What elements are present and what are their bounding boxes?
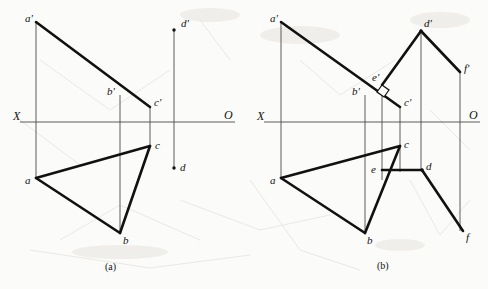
panel-b-edge-ab [281, 178, 365, 233]
panel-b-thin-lines [281, 22, 460, 233]
panel-a-edge-a'c' [36, 22, 150, 107]
right-angle-marker-icon [377, 85, 389, 97]
panel-b-axis-label-o: O [469, 109, 478, 121]
caption-panel-b: (b) [377, 261, 389, 271]
panel-a-dot-d [172, 166, 175, 169]
panel-b-point-label-e: e [371, 164, 376, 175]
figure-canvas: X O a' b' c' d' a b c d X O a' b' e' c' … [0, 0, 488, 289]
panel-b-point-label-d-prime: d' [424, 18, 432, 29]
panel-a [20, 22, 235, 233]
panel-b-axis-label-x: X [257, 110, 264, 122]
panel-b-point-label-b-prime: b' [352, 86, 360, 97]
panel-b-dot-d [420, 168, 423, 171]
projection-drawing-svg [0, 0, 488, 289]
caption-panel-a: (a) [105, 262, 116, 272]
panel-a-dot-d' [172, 28, 175, 31]
panel-b-point-label-a: a [270, 175, 276, 186]
panel-b-point-label-a-prime: a' [270, 13, 278, 24]
panel-a-top-view-edges [36, 146, 150, 233]
panel-b-point-label-b: b [367, 235, 373, 246]
panel-b-point-label-d: d [426, 161, 432, 172]
panel-b-point-label-c: c [404, 139, 409, 150]
panel-a-point-label-b-prime: b' [107, 86, 115, 97]
panel-b-edge-d'e' [382, 31, 421, 85]
panel-a-axis-label-x: X [13, 110, 20, 122]
panel-b-edge-d'f' [421, 31, 460, 72]
panel-a-point-label-c-prime: c' [154, 97, 161, 108]
panel-a-point-label-a-prime: a' [25, 13, 33, 24]
panel-a-thin-lines [36, 22, 174, 233]
panel-b-point-label-e-prime: e' [372, 72, 379, 83]
panel-a-axis-label-o: O [224, 109, 233, 121]
panel-b-point-label-f: f [466, 232, 469, 243]
panel-b-point-label-f-prime: f' [464, 63, 469, 74]
panel-a-point-label-d: d [180, 162, 186, 173]
panel-a-point-label-a: a [25, 175, 31, 186]
panel-b-edge-df [422, 170, 463, 231]
panel-a-point-label-b: b [123, 235, 129, 246]
right-angle-square [377, 85, 389, 97]
panel-a-edge-ac [36, 146, 150, 178]
panel-a-edge-ab [36, 178, 120, 233]
panel-b-dot-d' [419, 29, 422, 32]
panel-a-front-view-edges [36, 22, 150, 107]
panel-a-edge-bc [120, 146, 150, 233]
panel-a-point-label-c: c [155, 140, 160, 151]
panel-a-point-label-d-prime: d' [181, 18, 189, 29]
panel-b-point-label-c-prime: c' [404, 97, 411, 108]
panel-b-point-dots [419, 29, 423, 171]
panel-b-edge-bc [365, 146, 400, 233]
